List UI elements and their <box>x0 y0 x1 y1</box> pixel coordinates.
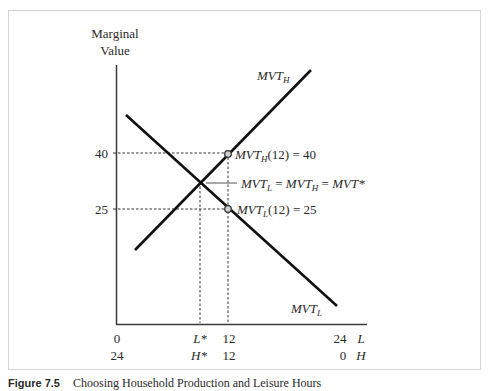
figure-number: Figure 7.5 <box>8 377 60 389</box>
figure-caption-text: Choosing Household Production and Leisur… <box>73 376 321 390</box>
x-tick-l-12: 12 <box>223 331 236 346</box>
annotation-equilibrium: MVTL = MVTH = MVT* <box>240 176 365 193</box>
x-tick-l-0: 0 <box>114 331 121 346</box>
x-tick-h-star: H* <box>190 348 207 363</box>
point-mvt-h-12 <box>225 151 232 158</box>
annotation-mvt-l-12: MVTL(12) = 25 <box>236 202 317 219</box>
y-tick-label-40: 40 <box>95 146 108 161</box>
x-tick-l-star: L* <box>192 331 207 346</box>
mvt-l-label: MVTL <box>290 301 322 318</box>
y-tick-label-25: 25 <box>95 202 108 217</box>
x-axis-label-h: H <box>355 348 366 363</box>
x-tick-h-12: 12 <box>223 348 236 363</box>
annotation-mvt-h-12: MVTH(12) = 40 <box>234 147 316 164</box>
x-tick-l-24: 24 <box>334 331 348 346</box>
figure-caption: Figure 7.5 Choosing Household Production… <box>8 376 321 391</box>
mvt-h-label: MVTH <box>256 68 290 85</box>
x-axis-label-l: L <box>356 331 364 346</box>
point-mvt-l-12 <box>225 206 232 213</box>
y-axis-label-line2: Value <box>100 43 130 58</box>
x-tick-h-24: 24 <box>111 348 125 363</box>
x-tick-h-0: 0 <box>340 348 347 363</box>
y-axis-label-line1: Marginal <box>91 26 139 41</box>
